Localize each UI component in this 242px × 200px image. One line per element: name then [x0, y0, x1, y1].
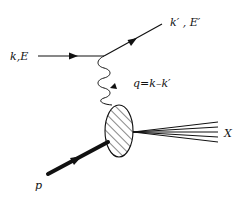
proton-line	[48, 142, 108, 174]
label-photon: q=k–k′	[133, 77, 171, 90]
arrow-icon	[69, 53, 78, 60]
label-proton: p	[35, 179, 42, 192]
hadron-blob	[105, 105, 133, 157]
arrow-icon	[128, 38, 138, 46]
outgoing-lepton-line	[104, 24, 162, 56]
incoming-lepton-line	[38, 53, 104, 60]
hadronic-fan-lines	[133, 122, 218, 142]
virtual-photon-line	[98, 56, 117, 105]
feynman-diagram: k,E k′ , E′ q=k–k′ p X	[0, 0, 242, 200]
label-incoming-lepton: k,E	[10, 50, 28, 63]
label-outgoing-lepton: k′ , E′	[170, 16, 201, 29]
label-hadronic-state: X	[223, 127, 233, 140]
arrow-icon	[110, 83, 117, 89]
arrow-icon	[70, 156, 82, 165]
